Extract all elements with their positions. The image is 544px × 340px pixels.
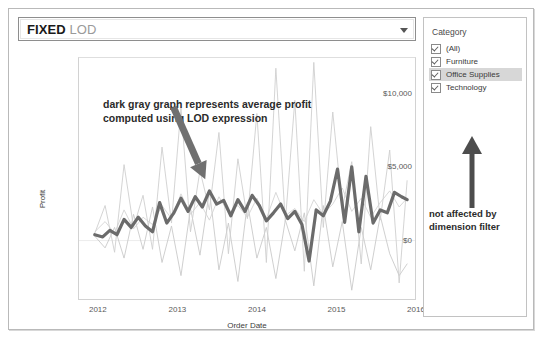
y-tick-label: $5,000 <box>360 162 416 171</box>
x-tick-label: 2013 <box>156 305 198 314</box>
filter-item-label: Technology <box>446 83 486 92</box>
parameter-dropdown[interactable]: FIXED LOD <box>18 17 416 41</box>
parameter-keyword: FIXED <box>27 22 66 37</box>
filter-item-label: (All) <box>446 44 460 53</box>
checkbox-icon[interactable] <box>431 70 441 80</box>
y-tick-label: $10,000 <box>360 89 416 98</box>
x-axis-title: Order Date <box>78 321 416 330</box>
x-tick-label: 2012 <box>77 305 119 314</box>
filter-item-all[interactable]: (All) <box>429 42 522 55</box>
filter-callout-text: not affected by dimension filter <box>429 208 525 234</box>
app-window-frame: FIXED LOD Profit Order Date dark gray gr… <box>8 8 534 330</box>
filter-title: Category <box>432 27 467 37</box>
up-arrow-icon <box>460 136 484 208</box>
parameter-rest: LOD <box>70 22 97 37</box>
category-filter-card: Category (All)FurnitureOffice SuppliesTe… <box>423 17 527 317</box>
chevron-down-icon[interactable] <box>400 28 408 33</box>
checkbox-icon[interactable] <box>431 83 441 93</box>
y-tick-label: $0 <box>360 236 416 245</box>
x-tick-label: 2014 <box>236 305 278 314</box>
filter-item-furniture[interactable]: Furniture <box>429 55 522 68</box>
filter-item-label: Furniture <box>446 57 478 66</box>
y-axis-title: Profit <box>38 169 47 229</box>
parameter-label: FIXED LOD <box>27 22 97 37</box>
worksheet-panel: FIXED LOD Profit Order Date dark gray gr… <box>18 17 416 317</box>
chart-annotation-text: dark gray graph represents average profi… <box>103 97 328 125</box>
checkbox-icon[interactable] <box>431 44 441 54</box>
x-tick-label: 2015 <box>315 305 357 314</box>
filter-item-label: Office Supplies <box>446 70 500 79</box>
filter-item-office-supplies[interactable]: Office Supplies <box>429 68 522 81</box>
filter-item-list: (All)FurnitureOffice SuppliesTechnology <box>429 42 522 94</box>
checkbox-icon[interactable] <box>431 57 441 67</box>
chart-card: Profit Order Date dark gray graph repres… <box>18 45 416 317</box>
filter-item-technology[interactable]: Technology <box>429 81 522 94</box>
